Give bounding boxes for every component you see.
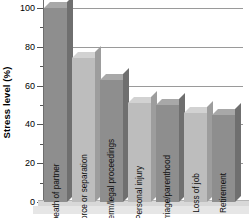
bar-chart: Stress level (%) 020406080100 Death of p…: [0, 0, 249, 218]
bar-front-face: [100, 80, 123, 202]
bar[interactable]: Prison term/legal proceedings: [100, 74, 123, 218]
bar[interactable]: Personal injury: [128, 97, 151, 218]
bar-front-face: [156, 105, 179, 202]
bars-layer: Death of partnerDivorce or separationPri…: [0, 0, 249, 218]
bar-front-face: [212, 115, 235, 202]
bar[interactable]: Retirement: [212, 109, 235, 218]
bar-front-face: [128, 103, 151, 202]
bar-front-face: [44, 8, 67, 202]
bar[interactable]: Death of partner: [44, 2, 67, 218]
bar-front-face: [72, 58, 95, 202]
bar-side-face: [235, 103, 241, 202]
bar[interactable]: Marriage/parenthood: [156, 99, 179, 218]
bar-front-face: [184, 113, 207, 202]
bar[interactable]: Divorce or separation: [72, 52, 95, 218]
bar[interactable]: Loss of job: [184, 107, 207, 218]
